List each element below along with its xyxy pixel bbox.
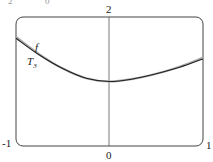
x-tick-right: 1 bbox=[206, 140, 212, 151]
y-tick-top: 2 bbox=[106, 4, 112, 15]
series-t3 bbox=[16, 38, 203, 81]
x-tick-left: -1 bbox=[2, 138, 11, 149]
label-T3: T3 bbox=[27, 56, 37, 72]
series-f bbox=[16, 37, 203, 82]
chart-plot bbox=[0, 0, 213, 162]
label-f: f bbox=[35, 42, 38, 53]
x-tick-center: 0 bbox=[106, 150, 112, 161]
